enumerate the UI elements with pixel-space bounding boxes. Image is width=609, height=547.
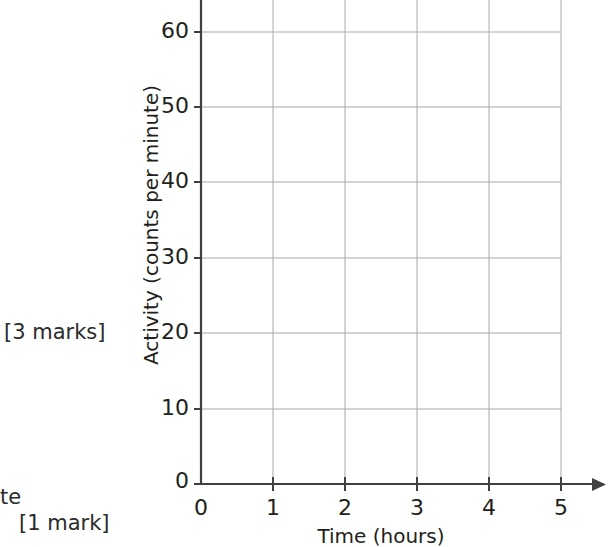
- vertical-gridlines: [201, 0, 561, 484]
- y-tick-label-30: 30: [161, 244, 189, 269]
- x-tick-label-1: 1: [266, 495, 280, 520]
- y-tick-labels: 60 50 40 30 20 10 0: [161, 18, 189, 493]
- x-tick-label-3: 3: [410, 495, 424, 520]
- x-tick-labels: 0 1 2 3 4 5: [194, 495, 568, 520]
- y-tick-label-60: 60: [161, 18, 189, 43]
- x-tick-label-0: 0: [194, 495, 208, 520]
- chart-svg: 60 50 40 30 20 10 0 0 1 2 3 4 5 Time (ho…: [0, 0, 609, 547]
- x-tick-label-2: 2: [338, 495, 352, 520]
- horizontal-gridlines: [201, 32, 561, 409]
- y-tick-label-10: 10: [161, 395, 189, 420]
- x-axis-arrowhead: [592, 478, 606, 491]
- y-tick-label-20: 20: [161, 319, 189, 344]
- y-tick-label-40: 40: [161, 168, 189, 193]
- y-tick-label-0: 0: [175, 468, 189, 493]
- y-tick-label-50: 50: [161, 93, 189, 118]
- activity-vs-time-chart: 60 50 40 30 20 10 0 0 1 2 3 4 5 Time (ho…: [0, 0, 609, 547]
- x-axis-title: Time (hours): [316, 524, 444, 547]
- x-tick-label-5: 5: [554, 495, 568, 520]
- y-axis-title: Activity (counts per minute): [139, 85, 163, 365]
- x-tick-label-4: 4: [482, 495, 496, 520]
